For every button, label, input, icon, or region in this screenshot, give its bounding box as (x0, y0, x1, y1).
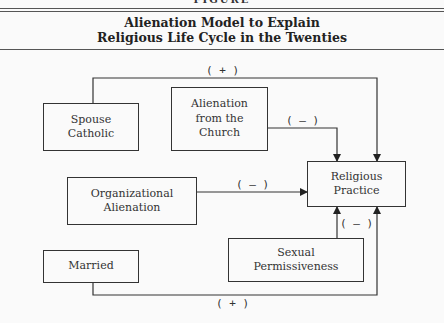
node-organizational-alienation: Organizational Alienation (67, 177, 197, 225)
node-sexual-permissiveness: Sexual Permissiveness (228, 238, 364, 282)
node-spouse-catholic: Spouse Catholic (43, 103, 139, 151)
edge-alienation-church (268, 128, 337, 161)
sign-married: ( + ) (216, 297, 249, 310)
sign-organizational: ( – ) (236, 178, 269, 191)
node-religious-practice: Religious Practice (307, 161, 406, 207)
sign-sexual: ( – ) (340, 217, 373, 230)
node-alienation-church: Alienation from the Church (171, 87, 268, 151)
sign-alienation-church: ( – ) (286, 114, 319, 127)
node-married: Married (43, 250, 139, 283)
sign-spouse-catholic: ( + ) (206, 64, 239, 77)
